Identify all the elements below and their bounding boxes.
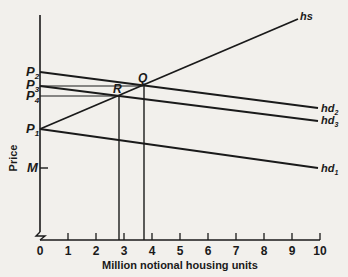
curves [40, 19, 318, 240]
point-label-r: R [113, 82, 122, 96]
point-label-q: Q [138, 71, 148, 85]
labels: Million notional housing unitsPriceP2P3P… [7, 10, 338, 271]
x-tick-label: 2 [93, 244, 100, 258]
x-tick-label: 5 [177, 244, 184, 258]
y-label-m: M [27, 160, 39, 175]
x-tick-label: 0 [37, 244, 44, 258]
x-tick-label: 8 [261, 244, 268, 258]
series-label-hs: hs [300, 10, 313, 22]
axis-break-icon [36, 232, 45, 240]
x-tick-label: 7 [233, 244, 240, 258]
x-ticks: 012345678910 [37, 233, 327, 258]
x-tick-label: 6 [205, 244, 212, 258]
x-tick-label: 3 [121, 244, 128, 258]
y-label-p1: P1 [26, 121, 40, 138]
x-axis-title: Million notional housing units [102, 259, 258, 271]
housing-market-chart: 012345678910 Million notional housing un… [0, 0, 348, 277]
x-tick-label: 1 [65, 244, 72, 258]
axes: 012345678910 [36, 15, 327, 258]
series-label-hd1: hd1 [321, 162, 338, 176]
x-tick-label: 4 [149, 244, 156, 258]
y-axis-title: Price [7, 145, 19, 172]
x-tick-label: 10 [313, 244, 327, 258]
x-tick-label: 9 [289, 244, 296, 258]
series-hs [40, 19, 298, 129]
series-hd1 [40, 129, 318, 168]
series-label-hd3: hd3 [321, 114, 338, 128]
